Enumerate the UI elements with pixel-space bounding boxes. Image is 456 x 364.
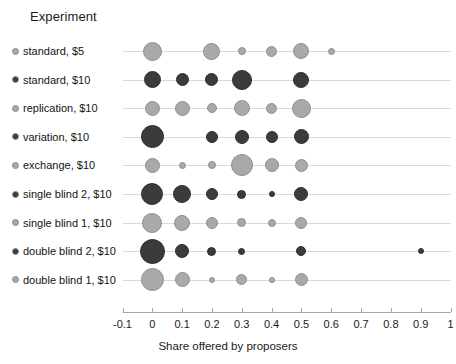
legend-item[interactable]: single blind 1, $10 — [12, 216, 112, 230]
axis-tick-mark — [152, 308, 153, 312]
data-bubble — [266, 103, 277, 114]
data-bubble — [176, 73, 189, 86]
data-bubble — [142, 213, 162, 233]
axis-tick-label: 0.2 — [204, 318, 219, 330]
legend-swatch-circle-icon — [12, 76, 19, 83]
legend-title: Experiment — [30, 9, 97, 24]
legend-item-label: standard, $5 — [23, 45, 84, 57]
gridline-row — [123, 108, 451, 109]
gridline-row — [123, 194, 451, 195]
data-bubble — [144, 71, 161, 88]
legend-item[interactable]: single blind 2, $10 — [12, 187, 112, 201]
legend-item-label: single blind 1, $10 — [23, 217, 112, 229]
gridline-row — [123, 51, 451, 52]
legend-item-label: exchange, $10 — [23, 159, 95, 171]
data-bubble — [141, 268, 164, 291]
axis-tick-mark — [331, 308, 332, 312]
data-bubble — [175, 244, 189, 258]
data-bubble — [174, 215, 190, 231]
legend-item[interactable]: double blind 1, $10 — [12, 273, 116, 287]
data-bubble — [296, 246, 306, 256]
data-bubble — [141, 125, 164, 148]
legend-item-label: double blind 1, $10 — [23, 274, 116, 286]
data-bubble — [175, 101, 190, 116]
legend-swatch-circle-icon — [12, 105, 19, 112]
gridline-row — [123, 223, 451, 224]
axis-tick-mark — [272, 308, 273, 312]
axis-tick-label: 0.7 — [353, 318, 368, 330]
data-bubble — [205, 73, 218, 86]
data-bubble — [295, 217, 307, 229]
data-bubble — [266, 46, 277, 57]
data-bubble — [209, 277, 215, 283]
data-bubble — [206, 131, 218, 143]
legend-item[interactable]: double blind 2, $10 — [12, 244, 116, 258]
data-bubble — [235, 130, 249, 144]
data-bubble — [206, 217, 218, 229]
data-bubble — [269, 191, 275, 197]
data-bubble — [179, 162, 186, 169]
legend-item-label: single blind 2, $10 — [23, 188, 112, 200]
data-bubble — [266, 131, 278, 143]
legend-swatch-circle-icon — [12, 248, 19, 255]
data-bubble — [207, 103, 217, 113]
data-bubble — [292, 99, 311, 118]
axis-tick-mark — [391, 308, 392, 312]
data-bubble — [328, 48, 335, 55]
axis-tick-mark — [451, 308, 452, 312]
legend-swatch-circle-icon — [12, 219, 19, 226]
gridline-row — [123, 165, 451, 166]
axis-tick-mark — [212, 308, 213, 312]
data-bubble — [145, 101, 160, 116]
gridline-row — [123, 280, 451, 281]
axis-tick-label: 0.3 — [234, 318, 249, 330]
axis-tick-mark — [182, 308, 183, 312]
data-bubble — [293, 72, 309, 88]
data-bubble — [294, 187, 308, 201]
data-bubble — [293, 43, 309, 59]
gridline-row — [123, 251, 451, 252]
data-bubble — [268, 219, 276, 227]
data-bubble — [294, 129, 309, 144]
data-bubble — [145, 158, 160, 173]
legend-swatch-circle-icon — [12, 48, 19, 55]
data-bubble — [207, 247, 216, 256]
axis-tick-mark — [242, 308, 243, 312]
legend-item[interactable]: standard, $10 — [12, 73, 90, 87]
axis-tick-label: 1 — [447, 318, 453, 330]
legend-swatch-circle-icon — [12, 133, 19, 140]
data-bubble — [141, 183, 163, 205]
axis-tick-label: 0.8 — [383, 318, 398, 330]
legend-swatch-circle-icon — [12, 276, 19, 283]
axis-tick-mark — [301, 308, 302, 312]
data-bubble — [175, 272, 190, 287]
bubble-chart: Experiment standard, $5standard, $10repl… — [0, 0, 456, 364]
x-axis-line — [123, 312, 451, 313]
data-bubble — [231, 154, 253, 176]
legend-item[interactable]: variation, $10 — [12, 130, 89, 144]
axis-tick-label: 0.9 — [413, 318, 428, 330]
legend-item-label: replication, $10 — [23, 102, 98, 114]
axis-tick-label: 0.5 — [294, 318, 309, 330]
data-bubble — [238, 248, 245, 255]
data-bubble — [418, 248, 424, 254]
legend-item[interactable]: exchange, $10 — [12, 158, 95, 172]
data-bubble — [295, 159, 308, 172]
data-bubble — [238, 47, 246, 55]
axis-tick-label: -0.1 — [113, 318, 132, 330]
legend-item[interactable]: replication, $10 — [12, 101, 98, 115]
data-bubble — [269, 277, 275, 283]
data-bubble — [143, 42, 162, 61]
data-bubble — [295, 273, 308, 286]
data-bubble — [203, 43, 220, 60]
gridline-row — [123, 137, 451, 138]
data-bubble — [208, 161, 216, 169]
legend-item[interactable]: standard, $5 — [12, 44, 84, 58]
data-bubble — [232, 70, 252, 90]
legend-item-label: standard, $10 — [23, 74, 90, 86]
data-bubble — [237, 190, 246, 199]
axis-tick-label: 0 — [149, 318, 155, 330]
axis-tick-mark — [123, 308, 124, 312]
data-bubble — [140, 239, 165, 264]
data-bubble — [236, 274, 247, 285]
